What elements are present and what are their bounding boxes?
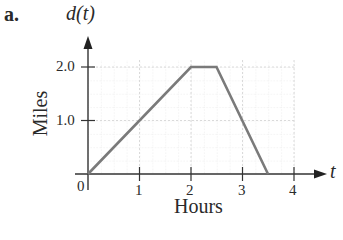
- grid: [88, 60, 296, 174]
- x-tick-label-2: 2: [186, 182, 194, 199]
- x-axis-arrow-icon: [314, 170, 327, 179]
- x-tick-label-4: 4: [289, 182, 297, 199]
- x-tick-label-0: 0: [77, 178, 85, 195]
- y-tick-label-2: 2.0: [56, 58, 75, 75]
- y-axis-arrow-icon: [84, 36, 93, 49]
- x-tick-label-3: 3: [238, 182, 246, 199]
- y-tick-label-1: 1.0: [56, 112, 75, 129]
- x-tick-label-1: 1: [135, 182, 143, 199]
